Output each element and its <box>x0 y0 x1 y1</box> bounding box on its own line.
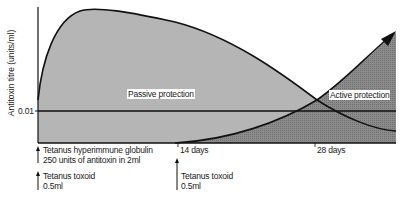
toxoid1-label-line1: Tetanus toxoid <box>43 171 95 181</box>
toxoid1-label-line2: 0.5ml <box>43 181 63 191</box>
toxoid2-arrow-icon <box>175 158 179 163</box>
globulin-arrow-icon <box>36 146 40 151</box>
day-28-label: 28 days <box>317 145 345 155</box>
threshold-label: 0.01 <box>18 106 34 116</box>
passive-protection-label: Passive protection <box>127 89 195 99</box>
toxoid2-label-line2: 0.5ml <box>181 181 201 191</box>
antitoxin-diagram <box>0 0 401 200</box>
y-axis-label: Antitoxin titre (units/ml) <box>6 18 16 128</box>
day-14-label: 14 days <box>180 145 208 155</box>
toxoid2-label-line1: Tetanus toxoid <box>181 171 233 181</box>
toxoid1-arrow-icon <box>36 171 40 176</box>
globulin-label-line2: 250 units of antitoxin in 2ml <box>43 155 140 165</box>
active-protection-label: Active protection <box>329 90 390 100</box>
globulin-label-line1: Tetanus hyperimmune globulin <box>43 145 153 155</box>
